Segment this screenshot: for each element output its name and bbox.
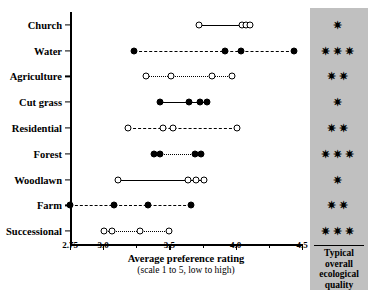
- data-point: [145, 202, 152, 209]
- y-tick-8: [65, 231, 70, 232]
- x-axis-subtitle: (scale 1 to 5, low to high): [70, 265, 302, 276]
- x-tick-label-1: 3.0: [98, 240, 109, 250]
- quality-stars-water: ✷✷✷: [310, 46, 368, 56]
- y-tick-3: [65, 102, 70, 103]
- data-point: [166, 228, 173, 235]
- y-axis-line: [70, 12, 72, 244]
- data-point: [137, 228, 144, 235]
- panel-caption: Typical overall ecological quality: [310, 248, 368, 290]
- category-label-successional: Successional: [0, 226, 62, 237]
- data-point: [157, 99, 164, 106]
- data-point: [170, 125, 177, 132]
- data-point: [110, 202, 117, 209]
- x-tick-label-3: 4.0: [230, 240, 241, 250]
- data-point: [114, 176, 121, 183]
- data-point: [222, 47, 229, 54]
- quality-stars-woodlawn: ✷: [310, 175, 368, 185]
- panel-divider: [314, 245, 364, 246]
- data-point: [203, 99, 210, 106]
- data-point: [157, 150, 164, 157]
- x-tick-label-2: 3.5: [164, 240, 175, 250]
- category-label-water: Water: [0, 45, 62, 56]
- x-tick-minor-2: [269, 244, 270, 248]
- quality-stars-forest: ✷✷✷: [310, 149, 368, 159]
- data-point: [238, 47, 245, 54]
- panel-caption-line-3: ecological: [310, 269, 368, 280]
- category-label-church: Church: [0, 19, 62, 30]
- data-point: [198, 150, 205, 157]
- panel-caption-line-4: quality: [310, 280, 368, 291]
- panel-caption-line-1: Typical: [310, 248, 368, 259]
- data-point: [247, 21, 254, 28]
- y-tick-6: [65, 179, 70, 180]
- panel-caption-line-2: overall: [310, 259, 368, 270]
- plot-area: [70, 12, 302, 244]
- data-point: [167, 73, 174, 80]
- series-connector-line: [128, 128, 237, 129]
- data-point: [200, 176, 207, 183]
- data-point: [187, 202, 194, 209]
- quality-stars-successional: ✷✷✷: [310, 226, 368, 236]
- y-tick-0: [65, 24, 70, 25]
- x-tick-label-0: 2.75: [62, 240, 78, 250]
- data-point: [195, 21, 202, 28]
- quality-stars-area: ✷✷✷✷✷✷✷✷✷✷✷✷✷✷✷✷✷✷: [310, 12, 368, 244]
- preference-rating-chart: ChurchWaterAgricultureCut grassResidenti…: [0, 0, 370, 298]
- category-label-residential: Residential: [0, 123, 62, 134]
- data-point: [67, 202, 74, 209]
- ecological-quality-panel: ✷✷✷✷✷✷✷✷✷✷✷✷✷✷✷✷✷✷ Typical overall ecolo…: [310, 8, 368, 290]
- data-point: [125, 125, 132, 132]
- x-axis-title: Average preference rating: [70, 253, 302, 265]
- data-point: [130, 47, 137, 54]
- category-label-woodlawn: Woodlawn: [0, 174, 62, 185]
- data-point: [109, 228, 116, 235]
- series-connector-line: [70, 205, 191, 206]
- category-label-forest: Forest: [0, 148, 62, 159]
- data-point: [186, 99, 193, 106]
- category-label-cut-grass: Cut grass: [0, 97, 62, 108]
- series-connector-line: [134, 51, 294, 52]
- data-point: [208, 73, 215, 80]
- x-tick-minor-1: [203, 244, 204, 248]
- category-axis-labels: ChurchWaterAgricultureCut grassResidenti…: [0, 12, 66, 244]
- data-point: [228, 73, 235, 80]
- y-tick-1: [65, 50, 70, 51]
- quality-stars-agriculture: ✷✷: [310, 71, 368, 81]
- quality-stars-residential: ✷✷: [310, 123, 368, 133]
- y-tick-2: [65, 76, 70, 77]
- data-point: [291, 47, 298, 54]
- data-point: [142, 73, 149, 80]
- x-tick-minor-0: [136, 244, 137, 248]
- quality-stars-church: ✷: [310, 20, 368, 30]
- data-point: [184, 176, 191, 183]
- data-point: [234, 125, 241, 132]
- quality-stars-cut-grass: ✷: [310, 97, 368, 107]
- series-connector-line: [146, 76, 232, 77]
- quality-stars-farm: ✷✷: [310, 200, 368, 210]
- x-tick-label-4: 4.5: [296, 240, 307, 250]
- data-point: [192, 176, 199, 183]
- y-tick-4: [65, 127, 70, 128]
- category-label-farm: Farm: [0, 200, 62, 211]
- data-point: [159, 125, 166, 132]
- category-label-agriculture: Agriculture: [0, 71, 62, 82]
- y-tick-5: [65, 153, 70, 154]
- data-point: [101, 228, 108, 235]
